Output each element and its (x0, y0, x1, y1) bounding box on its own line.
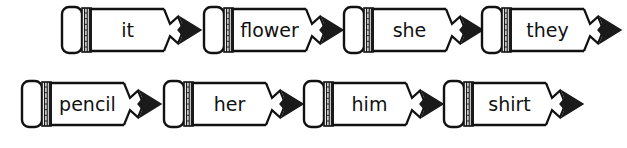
pencil-word-card[interactable]: him (300, 74, 448, 148)
pencil-word-card[interactable]: pencil (18, 74, 166, 148)
pencil-row-top: itflowershethey (0, 0, 627, 74)
pencil-word-card-worksheet: itflowershethey pencilherhimshirt (0, 0, 627, 148)
pencil-word-label: him (352, 93, 388, 115)
pencil-word-label: pencil (59, 93, 116, 115)
pencil-word-card[interactable]: it (58, 0, 206, 74)
pencil-word-card[interactable]: flower (200, 0, 348, 74)
pencil-word-label: shirt (488, 93, 530, 115)
pencil-eraser (482, 7, 502, 53)
pencil-eraser (204, 7, 224, 53)
pencil-word-card[interactable]: her (160, 74, 308, 148)
pencil-word-label: they (526, 19, 568, 41)
pencil-eraser (22, 81, 42, 127)
pencil-eraser (62, 7, 82, 53)
pencil-word-label: flower (240, 19, 299, 41)
pencil-word-card[interactable]: shirt (440, 74, 588, 148)
pencil-eraser (164, 81, 184, 127)
pencil-graphite-tip (560, 91, 583, 117)
pencil-graphite-tip (598, 17, 621, 43)
pencil-eraser (344, 7, 364, 53)
pencil-graphite-tip (178, 17, 201, 43)
pencil-word-card[interactable]: they (478, 0, 626, 74)
pencil-word-label: she (393, 19, 427, 41)
pencil-word-label: it (121, 19, 134, 41)
pencil-eraser (304, 81, 324, 127)
pencil-graphite-tip (138, 91, 161, 117)
pencil-word-label: her (214, 93, 246, 115)
pencil-word-card[interactable]: she (340, 0, 488, 74)
pencil-row-bottom: pencilherhimshirt (0, 74, 627, 148)
pencil-eraser (444, 81, 464, 127)
